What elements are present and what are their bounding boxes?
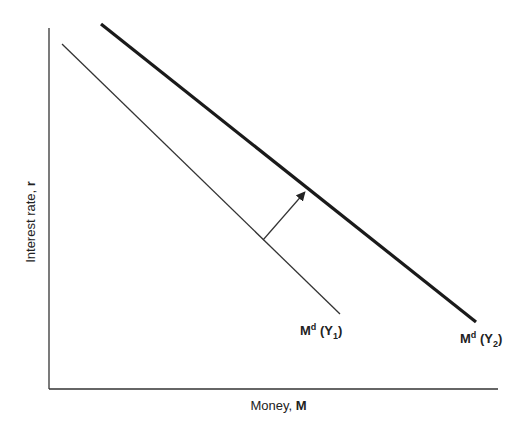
curve-label-y1: Md (Y1) xyxy=(300,322,342,341)
y-axis-label: Interest rate, r xyxy=(23,181,38,263)
curve-label-y2: Md (Y2) xyxy=(460,330,502,349)
money-demand-diagram xyxy=(0,0,529,426)
x-axis-label: Money, M xyxy=(0,398,529,413)
shift-arrow xyxy=(263,193,304,240)
money-demand-curve-y2 xyxy=(101,24,476,322)
